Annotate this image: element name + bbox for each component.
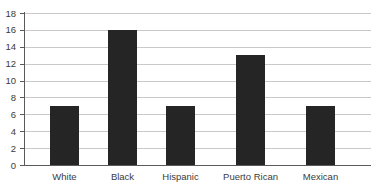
y-tick-mark (20, 165, 24, 166)
y-axis-tick-label: 2 (0, 144, 16, 154)
x-axis-tick-label-mexican: Mexican (303, 172, 338, 182)
bars-layer (24, 13, 371, 165)
x-axis-tick-label-puerto-rican: Puerto Rican (223, 172, 278, 182)
bar-chart: 18 16 14 12 10 8 6 4 2 0 White Black His… (0, 0, 377, 192)
bar-black[interactable] (108, 30, 137, 165)
y-axis-tick-label: 0 (0, 161, 16, 171)
y-axis-tick-label: 16 (0, 25, 16, 35)
y-axis-tick-label: 14 (0, 42, 16, 52)
y-axis-tick-label: 12 (0, 59, 16, 69)
bar-white[interactable] (50, 106, 79, 165)
y-axis-tick-label: 10 (0, 76, 16, 86)
x-axis-tick-label-hispanic: Hispanic (162, 172, 198, 182)
x-axis-tick-label-white: White (52, 172, 76, 182)
y-axis-tick-label: 6 (0, 110, 16, 120)
x-axis-spine (24, 165, 371, 166)
y-axis-tick-label: 18 (0, 9, 16, 19)
y-axis-tick-label: 8 (0, 93, 16, 103)
bar-hispanic[interactable] (166, 106, 195, 165)
x-axis-tick-label-black: Black (111, 172, 134, 182)
y-axis-tick-label: 4 (0, 127, 16, 137)
bar-mexican[interactable] (306, 106, 335, 165)
bar-puerto-rican[interactable] (236, 55, 265, 165)
